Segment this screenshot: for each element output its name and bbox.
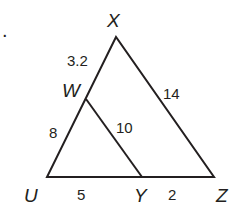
length-label-wy: 10 [116,119,133,136]
length-label-yz: 2 [168,186,176,203]
length-label-wu: 8 [49,124,57,141]
vertex-label-u: U [24,185,38,206]
vertex-label-x: X [106,10,121,31]
vertex-label-w: W [62,80,82,101]
length-label-uy: 5 [77,186,85,203]
vertex-label-y: Y [134,185,148,206]
length-label-xw: 3.2 [67,52,88,69]
length-label-xz: 14 [163,85,180,102]
segment-wy [86,99,142,177]
triangle-diagram: . X W U Y Z 3.2 8 14 10 5 2 [0,0,234,209]
problem-bullet: . [2,19,8,41]
vertex-label-z: Z [215,185,229,206]
